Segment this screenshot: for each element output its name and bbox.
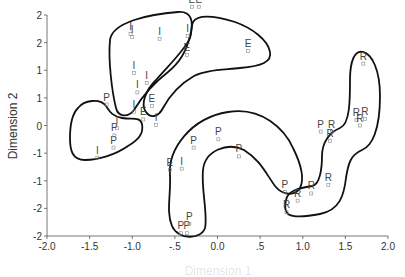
- square-marker-icon: [186, 34, 189, 37]
- square-marker-icon: [150, 105, 153, 108]
- y-axis-ticks: 22110-1-1-2-2: [33, 10, 47, 242]
- point-label: I: [136, 79, 139, 90]
- square-marker-icon: [145, 81, 148, 84]
- point-label: E: [149, 93, 156, 104]
- point-label: E: [195, 0, 202, 5]
- x-tick-label: -1.5: [81, 241, 99, 252]
- y-tick-label: 1: [36, 93, 42, 104]
- square-marker-icon: [132, 72, 135, 75]
- square-marker-icon: [310, 192, 313, 195]
- square-marker-icon: [327, 184, 330, 187]
- point-label: P: [183, 220, 190, 231]
- x-tick-label: .5: [256, 241, 265, 252]
- data-point-i: I: [180, 156, 183, 171]
- data-point-r: R: [294, 188, 301, 203]
- square-marker-icon: [158, 37, 161, 40]
- data-point-p: P: [215, 126, 222, 141]
- square-marker-icon: [363, 117, 366, 120]
- data-point-i: I: [136, 79, 139, 94]
- data-point-p: P: [190, 135, 197, 150]
- data-point-r: R: [326, 128, 333, 143]
- y-tick-label: -1: [33, 176, 42, 187]
- square-marker-icon: [185, 232, 188, 235]
- point-label: I: [96, 145, 99, 156]
- point-label: P: [235, 143, 242, 154]
- data-point-i: I: [145, 70, 148, 85]
- data-point-i: I: [158, 26, 161, 41]
- point-label: I: [180, 156, 183, 167]
- point-label: P: [317, 119, 324, 130]
- point-label: I: [158, 26, 161, 37]
- y-tick-label: 2: [36, 10, 42, 21]
- point-label: R: [356, 113, 363, 124]
- data-point-r: R: [360, 51, 367, 65]
- x-tick-label: -1.0: [124, 241, 142, 252]
- square-marker-icon: [362, 62, 365, 65]
- y-tick-label: -2: [33, 203, 42, 214]
- data-point-i: I: [96, 145, 99, 160]
- square-marker-icon: [237, 155, 240, 158]
- point-label: I: [186, 23, 189, 34]
- point-label: I: [133, 99, 136, 110]
- point-label: I: [133, 60, 136, 71]
- point-label: E: [140, 106, 147, 117]
- data-point-e: E: [195, 0, 202, 8]
- point-label: R: [326, 128, 333, 139]
- y-axis-title: Dimension 2: [6, 92, 20, 159]
- x-tick-label: 1.0: [296, 241, 310, 252]
- y-tick-label: 1: [36, 65, 42, 76]
- hull-prediction-left-cluster: [70, 101, 142, 160]
- point-label: I: [145, 70, 148, 81]
- point-label: I: [131, 24, 134, 35]
- square-marker-icon: [197, 5, 200, 8]
- data-point-r: R: [356, 113, 363, 128]
- data-point-i: I: [131, 24, 134, 39]
- square-marker-icon: [319, 130, 322, 133]
- square-marker-icon: [217, 138, 220, 141]
- data-point-r: R: [308, 180, 315, 195]
- point-label: R: [283, 199, 290, 210]
- square-marker-icon: [358, 124, 361, 127]
- data-point-p: P: [282, 179, 289, 194]
- x-axis-title: Dimension 1: [185, 264, 252, 277]
- y-tick-label: 0: [36, 121, 42, 132]
- point-label: E: [245, 38, 252, 49]
- hull-explanation-cluster: [144, 17, 271, 116]
- point-label: R: [325, 172, 332, 183]
- data-point-e: E: [245, 38, 252, 53]
- square-marker-icon: [136, 91, 139, 94]
- x-tick-label: -.5: [169, 241, 181, 252]
- x-axis-ticks: -2.0-1.5-1.0-.50.0.51.01.52.0: [38, 236, 395, 252]
- square-marker-icon: [180, 167, 183, 170]
- square-marker-icon: [185, 53, 188, 56]
- data-point-p: P: [235, 143, 242, 158]
- square-marker-icon: [190, 5, 193, 8]
- x-tick-label: 0.0: [211, 241, 225, 252]
- data-point-r: R: [325, 172, 332, 187]
- square-marker-icon: [329, 139, 332, 142]
- square-marker-icon: [296, 199, 299, 202]
- point-label: P: [111, 122, 118, 133]
- point-label: E: [166, 157, 173, 168]
- data-point-p: P: [317, 119, 324, 134]
- square-marker-icon: [247, 49, 250, 52]
- point-label: R: [360, 51, 367, 62]
- data-point-i: I: [186, 23, 189, 37]
- point-label: E: [183, 42, 190, 53]
- square-marker-icon: [155, 123, 158, 126]
- square-marker-icon: [192, 146, 195, 149]
- x-tick-label: 1.5: [338, 241, 352, 252]
- square-marker-icon: [112, 146, 115, 149]
- data-point-e: E: [183, 42, 190, 57]
- point-label: P: [103, 92, 110, 103]
- point-label: P: [186, 211, 193, 222]
- data-point-i: I: [155, 112, 158, 127]
- data-point-i: I: [132, 60, 135, 75]
- data-points: IIIIIIIIIIIIEEEEEEEPPPPPPPPPPPRRRRRRRRRR: [96, 0, 369, 235]
- x-tick-label: -2.0: [38, 241, 56, 252]
- point-label: P: [190, 135, 197, 146]
- square-marker-icon: [131, 36, 134, 39]
- square-marker-icon: [142, 118, 145, 121]
- point-label: I: [155, 112, 158, 123]
- y-tick-label: -1: [33, 148, 42, 159]
